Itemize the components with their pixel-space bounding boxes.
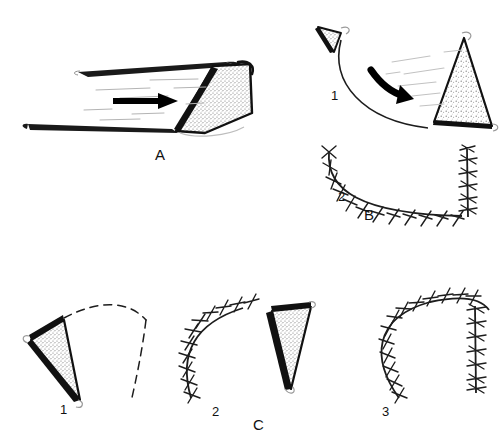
panel-b-donor-flap	[315, 27, 349, 53]
panel-c-step-label-2: 2	[212, 404, 219, 419]
panel-c-step3-drawing	[379, 288, 489, 403]
panel-b-recipient-flap	[433, 32, 498, 131]
panel-a-advance-arrow-icon	[113, 93, 178, 109]
panel-c-flap-1	[23, 315, 82, 407]
surgical-figure: A B C 1 2 1 2 3	[0, 0, 500, 446]
panel-label-c: C	[253, 416, 264, 433]
panel-b-step2-drawing	[322, 145, 477, 226]
figure-canvas	[0, 0, 500, 446]
panel-a-drawing	[23, 62, 253, 137]
panel-b-step-label-1: 1	[331, 88, 338, 103]
panel-label-a: A	[155, 146, 166, 163]
panel-label-b: B	[364, 206, 375, 223]
panel-c-suture-stitches-3	[379, 288, 486, 403]
panel-a-lower-incision	[23, 124, 178, 133]
panel-b-suture-stitches	[322, 145, 477, 226]
panel-c-step2-drawing	[179, 294, 315, 403]
panel-c-flap-2	[266, 302, 315, 393]
panel-b-rotation-arrow-icon	[371, 70, 414, 104]
panel-b-step-label-2: 2	[338, 189, 345, 204]
panel-c-step-label-1: 1	[60, 402, 67, 417]
panel-c-step-label-3: 3	[382, 404, 389, 419]
panel-b-step1-drawing	[315, 27, 498, 131]
panel-c-step1-drawing	[23, 305, 146, 408]
